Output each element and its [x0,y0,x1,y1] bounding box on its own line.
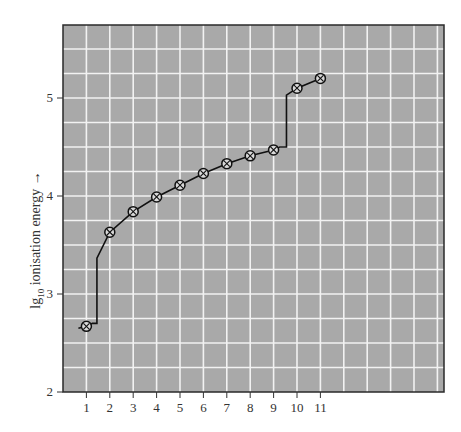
data-point-marker [81,321,91,331]
data-point-marker [128,207,138,217]
data-point-marker [105,227,115,237]
y-tick-label: 3 [47,286,54,301]
x-tick-label: 11 [314,400,327,415]
ionisation-energy-chart: 2345 1234567891011 lg10 ionisation energ… [0,0,461,432]
y-axis-label: lg10 ionisation energy → [28,171,46,308]
data-point-marker [292,83,302,93]
x-tick-label: 10 [291,400,304,415]
x-tick-label: 9 [270,400,277,415]
data-point-marker [269,145,279,155]
x-tick-label: 3 [130,400,137,415]
x-tick-label: 1 [83,400,90,415]
y-tick-label: 2 [47,384,54,399]
x-tick-label: 7 [224,400,231,415]
y-tick-label: 5 [47,90,54,105]
data-point-marker [198,168,208,178]
x-tick-label: 8 [247,400,254,415]
x-tick-label: 4 [153,400,160,415]
y-tick-label: 4 [47,188,54,203]
x-tick-label: 5 [177,400,184,415]
y-axis: 2345 [47,90,64,399]
data-point-marker [222,159,232,169]
plot-area [63,25,444,392]
data-point-marker [152,192,162,202]
x-axis: 1234567891011 [83,392,327,415]
data-point-marker [245,151,255,161]
x-tick-label: 6 [200,400,207,415]
data-point-marker [175,180,185,190]
x-tick-label: 2 [107,400,114,415]
data-point-marker [315,73,325,83]
